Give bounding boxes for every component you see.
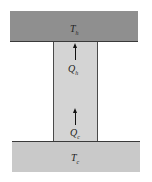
hot-reservoir-label: Th [70, 24, 79, 36]
heat-flow-hot-label: Qh [68, 64, 78, 76]
heat-flow-cold-label: Qc [70, 128, 80, 140]
heat-flow-arrow-up-icon [75, 112, 76, 125]
cold-reservoir-label: Tc [71, 153, 79, 165]
heat-flow-arrow-up-icon [75, 47, 76, 60]
